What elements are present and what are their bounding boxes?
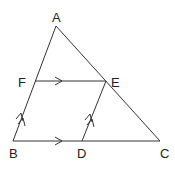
- point-label-a: A: [52, 10, 61, 25]
- triangle-diagram: A B C D E F: [0, 0, 175, 173]
- double-arrow-icon-bf: [16, 113, 25, 126]
- point-label-d: D: [77, 146, 86, 161]
- point-label-c: C: [160, 146, 169, 161]
- double-arrow-icon-de: [85, 114, 94, 127]
- point-label-b: B: [9, 146, 18, 161]
- segment-ac: [56, 26, 160, 141]
- segment-de: [82, 81, 106, 141]
- point-label-f: F: [18, 75, 26, 90]
- point-label-e: E: [111, 75, 120, 90]
